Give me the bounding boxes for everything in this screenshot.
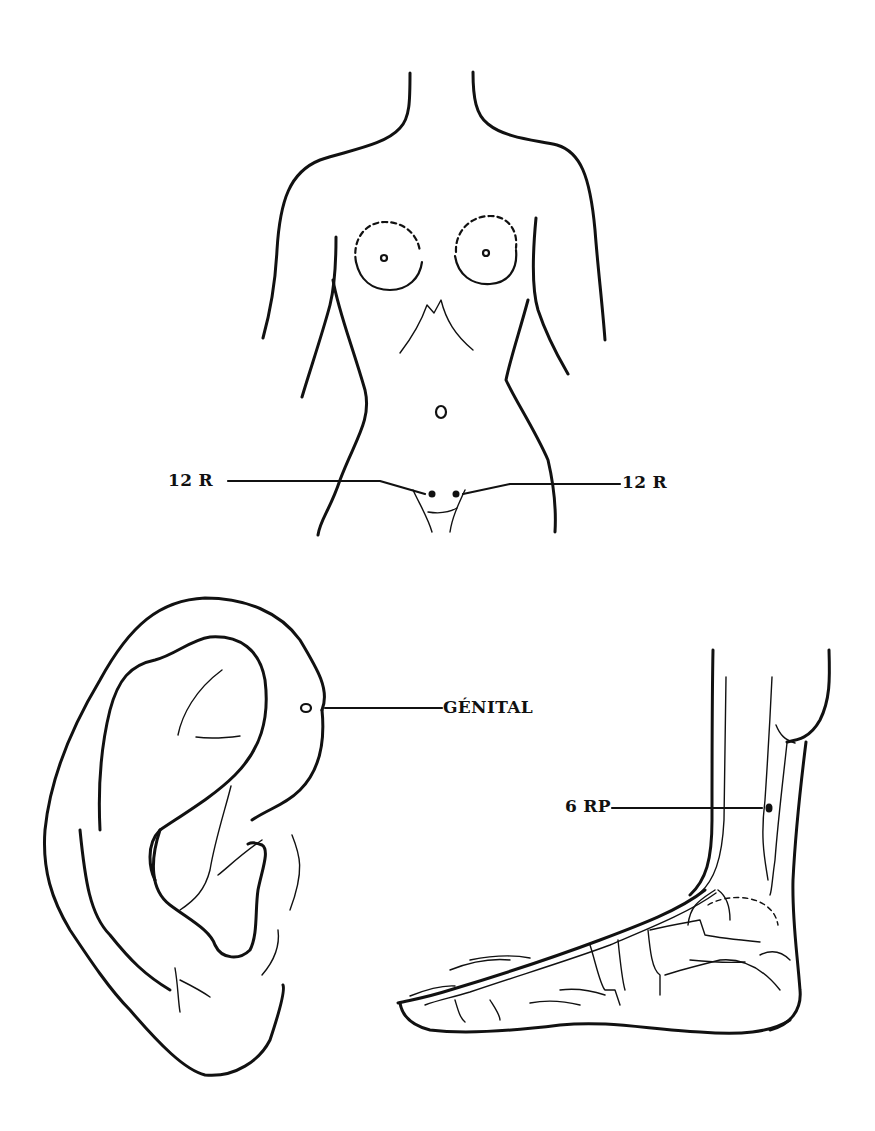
torso-figure [228, 72, 620, 535]
label-genital: GÉNITAL [443, 699, 533, 716]
anatomy-diagram [0, 0, 875, 1131]
diagram-page: 12 R 12 R GÉNITAL 6 RP [0, 0, 875, 1131]
ear-figure [44, 598, 442, 1075]
label-12r-right: 12 R [622, 474, 667, 491]
label-12r-left: 12 R [168, 472, 213, 489]
label-6rp: 6 RP [565, 798, 611, 815]
